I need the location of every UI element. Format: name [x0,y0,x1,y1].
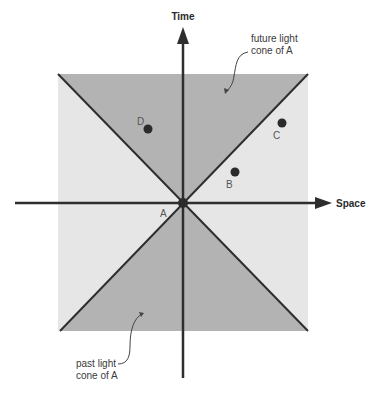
event-a-point [178,198,188,208]
time-axis-arrow-icon [177,27,189,44]
event-c-label: C [273,130,280,141]
event-c-point [278,119,287,128]
time-axis-label: Time [171,11,195,22]
event-d-label: D [137,116,144,127]
future-cone-label-line2: cone of A [251,45,293,56]
past-cone-label-line1: past light [76,358,116,369]
space-axis-arrow-icon [315,197,332,209]
event-b-label: B [226,179,233,190]
event-d-point [144,125,153,134]
space-axis-label: Space [336,198,366,209]
event-b-point [231,168,240,177]
past-cone-label-line2: cone of A [76,370,118,381]
future-cone-label-line1: future light [251,33,298,44]
light-cone-diagram: Time Space A D C B future light cone of … [0,0,380,393]
event-a-label: A [160,208,167,219]
